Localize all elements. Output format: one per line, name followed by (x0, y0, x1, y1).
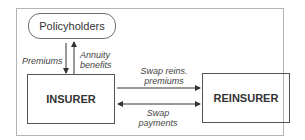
premiums-label: Premiums (22, 56, 63, 66)
swap-reins-premiums-label: Swap reins. premiums (134, 66, 194, 86)
swap-payments-label: Swap payments (128, 108, 188, 128)
annuity-benefits-label: Annuity benefits (80, 50, 112, 70)
